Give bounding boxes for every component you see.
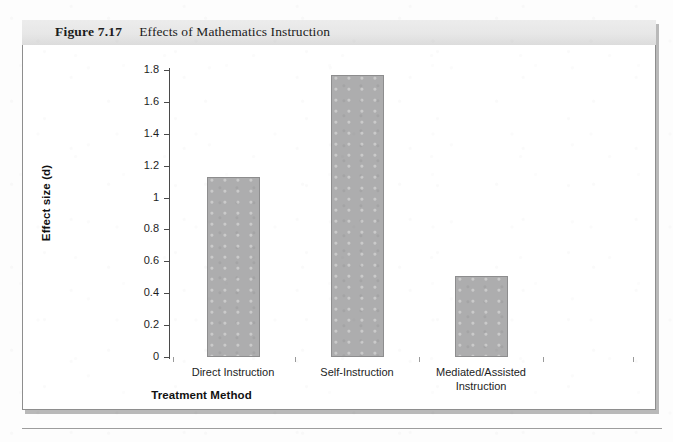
x-axis-tick — [419, 357, 420, 362]
y-axis-tick-label-text: 0.4 — [117, 286, 159, 298]
y-axis-tick-label-text: 0.6 — [117, 254, 159, 266]
y-axis-tick-label-text: 0.8 — [117, 222, 159, 234]
x-axis-title-text: Treatment Method — [151, 389, 252, 401]
y-axis-tick — [164, 70, 169, 71]
y-axis-tick — [164, 293, 169, 294]
y-axis-title: Effect size (d) — [40, 118, 52, 288]
y-axis-tick — [164, 166, 169, 167]
y-axis-tick-label-text: 1 — [117, 191, 159, 203]
figure-header-band: Figure 7.17Effects of Mathematics Instru… — [22, 20, 656, 45]
figure-number: Figure 7.17 — [55, 24, 122, 39]
y-axis-tick-label-text: 0 — [117, 350, 159, 362]
x-axis-tick — [173, 357, 174, 362]
x-axis-tick — [543, 357, 544, 362]
x-axis-tick — [633, 357, 634, 362]
y-axis-line — [169, 68, 170, 359]
x-axis-tick — [295, 357, 296, 362]
plot-frame: Effect size (d) 00.20.40.60.811.21.41.61… — [22, 45, 656, 410]
figure-caption: Effects of Mathematics Instruction — [139, 24, 330, 39]
figure-title: Figure 7.17Effects of Mathematics Instru… — [55, 24, 330, 40]
y-axis-tick — [164, 134, 169, 135]
y-axis-tick-label-text: 1.2 — [117, 159, 159, 171]
figure-box: Figure 7.17Effects of Mathematics Instru… — [22, 20, 656, 410]
bar-chart: Effect size (d) 00.20.40.60.811.21.41.61… — [23, 45, 655, 409]
y-axis-tick-label-text: 1.8 — [117, 63, 159, 75]
y-axis-tick — [164, 261, 169, 262]
bar — [207, 177, 260, 357]
x-axis-title: Treatment Method — [23, 389, 657, 401]
y-axis-tick-label-text: 0.2 — [117, 318, 159, 330]
page-bottom-rule — [22, 428, 662, 429]
y-axis-tick — [164, 229, 169, 230]
x-axis-category-label-line: Mediated/Assisted — [406, 365, 556, 379]
y-axis-tick — [164, 198, 169, 199]
y-axis-tick — [164, 325, 169, 326]
bar — [331, 75, 384, 357]
y-axis-tick-label-text: 1.6 — [117, 95, 159, 107]
y-axis-tick-label-text: 1.4 — [117, 127, 159, 139]
y-axis-tick — [164, 102, 169, 103]
y-axis-tick — [164, 357, 169, 358]
bar — [455, 276, 508, 357]
